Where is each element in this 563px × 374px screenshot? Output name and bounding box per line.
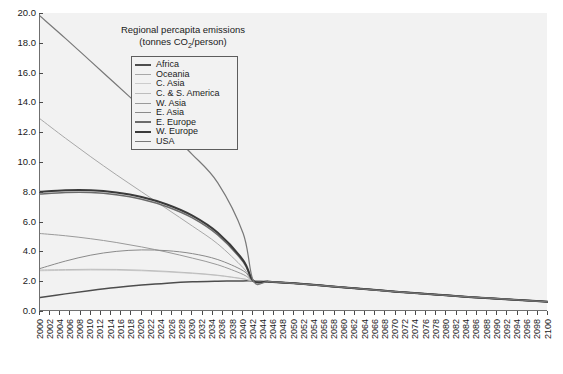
x-axis-tick-mark bbox=[476, 311, 477, 315]
x-axis-tick-label: 2042 bbox=[248, 319, 258, 339]
series-line bbox=[40, 190, 548, 302]
x-axis-tick-mark bbox=[405, 311, 406, 315]
series-line bbox=[40, 16, 548, 302]
x-axis-tick-mark bbox=[293, 311, 294, 315]
x-axis-tick-mark bbox=[456, 311, 457, 315]
x-axis-tick-mark bbox=[222, 311, 223, 315]
x-axis-tick-mark bbox=[303, 311, 304, 315]
y-axis-tick-mark bbox=[39, 222, 43, 223]
y-axis-tick-label: 14.0 bbox=[2, 97, 36, 106]
x-axis-tick-label: 2008 bbox=[75, 319, 85, 339]
y-axis-tick-label: 10.0 bbox=[2, 157, 36, 166]
x-axis-tick-label: 2040 bbox=[238, 319, 248, 339]
x-axis-tick-label: 2016 bbox=[116, 319, 126, 339]
chart-title-main: Regional percapita emissions bbox=[121, 24, 245, 35]
x-axis-tick-label: 2068 bbox=[380, 319, 390, 339]
x-axis-tick-label: 2034 bbox=[207, 319, 217, 339]
x-axis-tick-mark bbox=[212, 311, 213, 315]
x-axis-tick-label: 2090 bbox=[492, 319, 502, 339]
x-axis-tick-mark bbox=[425, 311, 426, 315]
x-axis-tick-mark bbox=[181, 311, 182, 315]
x-axis-tick-mark bbox=[364, 311, 365, 315]
y-axis-tick-label: 20.0 bbox=[2, 8, 36, 17]
x-axis-tick-mark bbox=[120, 311, 121, 315]
x-axis-tick-label: 2080 bbox=[441, 319, 451, 339]
legend-swatch-icon bbox=[135, 103, 151, 104]
x-axis-tick-mark bbox=[130, 311, 131, 315]
x-axis-tick-mark bbox=[242, 311, 243, 315]
series-line bbox=[40, 234, 548, 302]
x-axis-tick-label: 2096 bbox=[522, 319, 532, 339]
x-axis-tick-label: 2000 bbox=[35, 319, 45, 339]
x-axis-tick-mark bbox=[527, 311, 528, 315]
y-axis-tick-label: 8.0 bbox=[2, 187, 36, 196]
x-axis-tick-mark bbox=[384, 311, 385, 315]
x-axis-tick-label: 2074 bbox=[410, 319, 420, 339]
x-axis-tick-label: 2092 bbox=[502, 319, 512, 339]
x-axis-tick-mark bbox=[486, 311, 487, 315]
y-axis-tick-mark bbox=[39, 73, 43, 74]
x-axis-tick-mark bbox=[110, 311, 111, 315]
x-axis-tick-label: 2018 bbox=[126, 319, 136, 339]
x-axis-tick-mark bbox=[283, 311, 284, 315]
x-axis-tick-label: 2046 bbox=[268, 319, 278, 339]
legend-item: W. Asia bbox=[135, 98, 233, 108]
x-axis-tick-label: 2050 bbox=[289, 319, 299, 339]
legend-item-label: USA bbox=[156, 137, 175, 146]
x-axis-tick-mark bbox=[100, 311, 101, 315]
x-axis-tick-label: 2048 bbox=[278, 319, 288, 339]
x-axis-tick-mark bbox=[49, 311, 50, 315]
x-axis-tick-mark bbox=[171, 311, 172, 315]
x-axis-tick-label: 2052 bbox=[299, 319, 309, 339]
x-axis-tick-label: 2088 bbox=[482, 319, 492, 339]
y-axis-tick-mark bbox=[39, 192, 43, 193]
x-axis-tick-label: 2060 bbox=[339, 319, 349, 339]
legend-item: USA bbox=[135, 137, 233, 147]
x-axis-tick-mark bbox=[151, 311, 152, 315]
x-axis-tick-label: 2082 bbox=[451, 319, 461, 339]
x-axis-tick-mark bbox=[313, 311, 314, 315]
y-axis-tick-mark bbox=[39, 251, 43, 252]
x-axis-tick-mark bbox=[354, 311, 355, 315]
x-axis-tick-label: 2006 bbox=[65, 319, 75, 339]
x-axis-tick-label: 2054 bbox=[309, 319, 319, 339]
x-axis-tick-label: 2044 bbox=[258, 319, 268, 339]
x-axis: 2000200220042006200820102012201420162018… bbox=[0, 311, 563, 374]
x-axis-tick-label: 2014 bbox=[106, 319, 116, 339]
x-axis-tick-label: 2026 bbox=[167, 319, 177, 339]
y-axis-tick-label: 16.0 bbox=[2, 68, 36, 77]
x-axis-tick-label: 2030 bbox=[187, 319, 197, 339]
x-axis-tick-label: 2078 bbox=[431, 319, 441, 339]
legend-swatch-icon bbox=[135, 64, 151, 66]
legend-item: C. & S. America bbox=[135, 89, 233, 99]
legend-item: W. Europe bbox=[135, 127, 233, 137]
x-axis-tick-mark bbox=[141, 311, 142, 315]
x-axis-tick-mark bbox=[161, 311, 162, 315]
x-axis-tick-label: 2020 bbox=[136, 319, 146, 339]
legend-swatch-icon bbox=[135, 112, 151, 113]
x-axis-tick-label: 2070 bbox=[390, 319, 400, 339]
x-axis-tick-label: 2066 bbox=[370, 319, 380, 339]
y-axis-tick-label: 18.0 bbox=[2, 38, 36, 47]
x-axis-tick-mark bbox=[466, 311, 467, 315]
x-axis-tick-mark bbox=[90, 311, 91, 315]
series-line bbox=[40, 119, 548, 302]
x-axis-tick-mark bbox=[191, 311, 192, 315]
legend-swatch-icon bbox=[135, 141, 151, 142]
x-axis-tick-mark bbox=[435, 311, 436, 315]
x-axis-tick-mark bbox=[506, 311, 507, 315]
y-axis-tick-mark bbox=[39, 311, 43, 312]
x-axis-tick-mark bbox=[415, 311, 416, 315]
x-axis-tick-label: 2012 bbox=[95, 319, 105, 339]
y-axis-tick-label: 4.0 bbox=[2, 246, 36, 255]
x-axis-tick-label: 2100 bbox=[543, 319, 553, 339]
x-axis-tick-label: 2010 bbox=[85, 319, 95, 339]
y-axis-tick-label: 2.0 bbox=[2, 276, 36, 285]
x-axis-tick-label: 2024 bbox=[156, 319, 166, 339]
legend-item-label: E. Asia bbox=[156, 108, 184, 117]
x-axis-tick-label: 2022 bbox=[146, 319, 156, 339]
chart-title: Regional percapita emissions (tonnes CO2… bbox=[108, 24, 258, 51]
y-axis-tick-mark bbox=[39, 132, 43, 133]
y-axis: 0.02.04.06.08.010.012.014.016.018.020.0 bbox=[0, 0, 36, 324]
x-axis-tick-mark bbox=[202, 311, 203, 315]
